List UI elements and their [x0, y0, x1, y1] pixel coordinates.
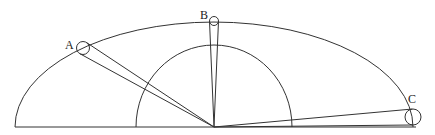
geometry-diagram: ABC — [0, 0, 435, 135]
circle-b — [210, 17, 219, 26]
sight-line-b-1 — [210, 21, 214, 127]
inner-arc — [136, 45, 292, 127]
sight-line-a-1 — [80, 54, 214, 127]
sight-lines — [80, 21, 413, 127]
label-a: A — [65, 38, 74, 52]
outer-arc — [15, 22, 413, 127]
sight-line-b-2 — [214, 21, 218, 127]
sight-line-c-1 — [214, 109, 412, 127]
sight-line-a-2 — [87, 43, 214, 127]
label-c: C — [408, 92, 416, 106]
label-b: B — [200, 8, 208, 22]
